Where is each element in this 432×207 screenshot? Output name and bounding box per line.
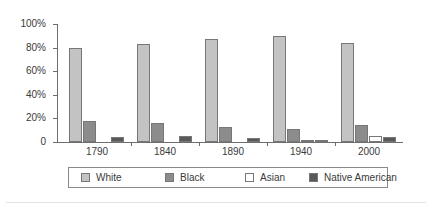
bar-1890-black[interactable] [219, 127, 232, 142]
bar-1840-black[interactable] [151, 123, 164, 142]
y-tick-label-100: 100% [20, 19, 46, 29]
bar-1940-asian[interactable] [301, 140, 314, 142]
y-tick-label-0: 0 [40, 137, 46, 147]
asian-swatch-icon [245, 173, 254, 182]
bar-2000-black[interactable] [355, 125, 368, 142]
x-tick-label-1940: 1940 [290, 147, 312, 157]
bar-1790-black[interactable] [83, 121, 96, 142]
bar-2000-white[interactable] [341, 43, 354, 142]
bar-group-1890: 1890 [205, 24, 267, 142]
legend-label-asian: Asian [260, 173, 285, 183]
y-tick-20: 20% [53, 118, 57, 119]
y-tick-100: 100% [53, 24, 57, 25]
y-axis-line [57, 24, 58, 143]
bar-group-2000: 2000 [341, 24, 403, 142]
bar-group-1840: 1840 [137, 24, 199, 142]
bar-2000-asian[interactable] [369, 136, 382, 142]
bar-1890-white[interactable] [205, 39, 218, 142]
legend-label-native-american: Native American [324, 173, 397, 183]
y-tick-0: 0 [53, 142, 57, 143]
bar-1940-white[interactable] [273, 36, 286, 142]
y-tick-40: 40% [53, 95, 57, 96]
x-tick-label-1890: 1890 [222, 147, 244, 157]
page-rule [6, 202, 426, 203]
bar-1790-white[interactable] [69, 48, 82, 142]
x-axis-line [57, 142, 403, 143]
bar-group-1940: 1940 [273, 24, 335, 142]
bar-group-1790: 1790 [69, 24, 131, 142]
legend-item-white[interactable]: White [81, 173, 122, 183]
bar-1790-native[interactable] [111, 137, 124, 142]
black-swatch-icon [165, 173, 174, 182]
bar-1840-white[interactable] [137, 44, 150, 142]
x-tick-label-1790: 1790 [86, 147, 108, 157]
y-tick-label-20: 20% [26, 113, 46, 123]
x-tick-1940 [335, 142, 336, 146]
legend-item-asian[interactable]: Asian [245, 173, 285, 183]
y-tick-label-80: 80% [26, 43, 46, 53]
legend-item-native-american[interactable]: Native American [309, 173, 397, 183]
x-tick-label-1840: 1840 [154, 147, 176, 157]
bar-1940-native[interactable] [315, 140, 328, 142]
legend-label-white: White [96, 173, 122, 183]
legend-label-black: Black [180, 173, 204, 183]
y-tick-80: 80% [53, 48, 57, 49]
x-tick-label-2000: 2000 [358, 147, 380, 157]
bar-2000-native[interactable] [383, 137, 396, 142]
native-american-swatch-icon [309, 173, 318, 182]
y-tick-60: 60% [53, 71, 57, 72]
bar-1940-black[interactable] [287, 129, 300, 142]
white-swatch-icon [81, 173, 90, 182]
y-tick-label-60: 60% [26, 66, 46, 76]
plot-area: 100% 80% 60% 40% 20% 0 1790 [57, 24, 403, 143]
x-tick-1890 [267, 142, 268, 146]
x-tick-1790 [131, 142, 132, 146]
bar-1890-native[interactable] [247, 138, 260, 142]
chart-legend: White Black Asian Native American [68, 167, 388, 188]
y-tick-label-40: 40% [26, 90, 46, 100]
x-tick-1840 [199, 142, 200, 146]
bar-1840-native[interactable] [179, 136, 192, 142]
legend-item-black[interactable]: Black [165, 173, 204, 183]
bar-chart: 100% 80% 60% 40% 20% 0 1790 [0, 0, 432, 207]
